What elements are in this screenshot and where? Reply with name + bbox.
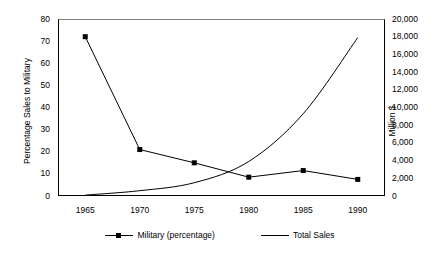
- y-axis-right-tick-label: 10,000: [392, 103, 426, 112]
- y-axis-right-tick-label: 2,000: [392, 174, 426, 183]
- legend-label-total-sales: Total Sales: [293, 230, 335, 240]
- x-axis-tick-label: 1985: [283, 206, 323, 215]
- chart-container: Percentage Sales to Military Million $ 0…: [0, 0, 440, 254]
- data-point-marker: [355, 177, 360, 182]
- y-axis-right-tick-label: 16,000: [392, 50, 426, 59]
- y-axis-left-tick-label: 20: [28, 147, 50, 156]
- y-axis-right-tick-label: 14,000: [392, 68, 426, 77]
- series-line-total-sales: [85, 38, 358, 196]
- y-axis-right-tick-label: 8,000: [392, 121, 426, 130]
- data-point-marker: [192, 160, 197, 165]
- y-axis-right-tick-label: 18,000: [392, 32, 426, 41]
- y-axis-right-tick-label: 12,000: [392, 85, 426, 94]
- plot-area: [58, 19, 385, 196]
- y-axis-left-tick-label: 40: [28, 103, 50, 112]
- legend-item-military: Military (percentage): [105, 230, 214, 240]
- x-axis-tick-label: 1975: [174, 206, 214, 215]
- chart-legend: Military (percentage) Total Sales: [0, 226, 440, 244]
- x-axis-ticks: 196519701975198019851990: [0, 200, 440, 216]
- y-axis-right-tick-label: 6,000: [392, 138, 426, 147]
- y-axis-left-tick-label: 70: [28, 37, 50, 46]
- data-point-marker: [137, 147, 142, 152]
- y-axis-left-tick-label: 30: [28, 125, 50, 134]
- series-line-military: [85, 37, 358, 180]
- x-axis-tick-label: 1990: [338, 206, 378, 215]
- plot-svg: [58, 19, 385, 196]
- y-axis-right-tick-label: 4,000: [392, 156, 426, 165]
- y-axis-left-tick-label: 80: [28, 15, 50, 24]
- legend-label-military: Military (percentage): [137, 230, 214, 240]
- data-point-marker: [246, 175, 251, 180]
- legend-item-total-sales: Total Sales: [261, 230, 335, 240]
- plain-line-icon: [261, 230, 289, 240]
- y-axis-left-tick-label: 50: [28, 81, 50, 90]
- y-axis-right-tick-label: 20,000: [392, 15, 426, 24]
- data-point-marker: [83, 34, 88, 39]
- x-axis-tick-label: 1980: [229, 206, 269, 215]
- x-axis-tick-label: 1965: [65, 206, 105, 215]
- x-axis-tick-label: 1970: [120, 206, 160, 215]
- y-axis-left-tick-label: 10: [28, 169, 50, 178]
- square-marker-icon: [105, 230, 133, 240]
- data-point-marker: [301, 168, 306, 173]
- y-axis-left-tick-label: 60: [28, 59, 50, 68]
